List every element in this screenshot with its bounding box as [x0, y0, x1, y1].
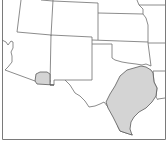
- border-oklahoma-arkansas: [148, 43, 151, 66]
- highlight-central-east-texas: [106, 66, 157, 135]
- border-newmexico-mexico: [50, 80, 65, 85]
- highlight-southeast-arizona: [35, 72, 54, 85]
- border-kansas-nebraska: [98, 13, 143, 14]
- range-map: [0, 0, 168, 143]
- border-colorado-north: [41, 0, 98, 3]
- border-utah-colorado: [51, 0, 53, 36]
- border-missouri-river: [137, 0, 148, 25]
- border-four-corners-horizontal: [17, 32, 92, 37]
- border-kansas-oklahoma: [92, 40, 148, 42]
- border-nevada-utah: [17, 0, 21, 32]
- border-oklahoma-panhandle: [92, 44, 151, 66]
- border-colorado-river: [2, 40, 13, 70]
- border-newmexico-texas: [65, 37, 92, 80]
- border-louisiana-coast: [158, 98, 165, 99]
